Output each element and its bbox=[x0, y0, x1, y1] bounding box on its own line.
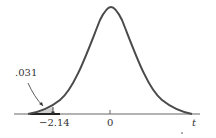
zero-label: 0 bbox=[107, 118, 113, 128]
critical-value-label: −2.14 bbox=[39, 118, 70, 128]
density-curve bbox=[28, 7, 192, 114]
axis-label-t: t bbox=[192, 118, 196, 128]
annotation-arrow bbox=[28, 83, 43, 106]
stray-dot bbox=[181, 132, 183, 134]
area-label: .031 bbox=[15, 68, 37, 78]
